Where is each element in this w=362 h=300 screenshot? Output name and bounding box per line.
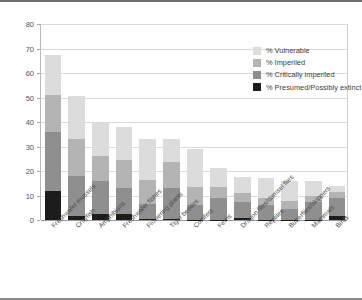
legend-swatch-icon: [253, 71, 261, 79]
y-axis-tick-label: 60: [4, 69, 34, 78]
bar-segment: [210, 187, 227, 198]
y-axis-tick-label: 70: [4, 44, 34, 53]
bar-segment: [234, 193, 251, 203]
bar-segment: [210, 168, 227, 187]
legend-swatch-icon: [253, 47, 261, 55]
y-axis-tick-mark: [37, 220, 40, 221]
bar-segment: [234, 177, 251, 192]
legend-label: % Imperiled: [266, 58, 305, 67]
bar-segment: [68, 139, 85, 176]
bar-segment: [45, 95, 62, 132]
legend-label: % Presumed/Possibly extinct: [266, 83, 361, 92]
y-axis-tick-label: 50: [4, 93, 34, 102]
y-axis-tick-label: 40: [4, 118, 34, 127]
bar-segment: [116, 127, 133, 160]
legend-item: % Critically imperiled: [253, 70, 361, 79]
y-axis-tick-label: 20: [4, 167, 34, 176]
legend-item: % Presumed/Possibly extinct: [253, 83, 361, 92]
legend-swatch-icon: [253, 59, 261, 67]
y-axis-tick-label: 30: [4, 142, 34, 151]
bar-stack: [92, 123, 109, 220]
bar-stack: [45, 55, 62, 220]
y-axis-tick-label: 0: [4, 216, 34, 225]
y-axis-tick-label: 10: [4, 191, 34, 200]
bar-segment: [187, 149, 204, 187]
legend-item: % Vulnerable: [253, 46, 361, 55]
bar-segment: [163, 139, 180, 162]
bar-segment: [139, 139, 156, 180]
bar-segment: [116, 160, 133, 189]
chart-legend: % Vulnerable% Imperiled% Critically impe…: [253, 46, 361, 92]
bar-segment: [45, 55, 62, 95]
y-axis-tick-label: 80: [4, 20, 34, 29]
bar-segment: [163, 162, 180, 188]
bar-segment: [45, 132, 62, 191]
chart-figure: 01020304050607080 % Vulnerable% Imperile…: [0, 0, 362, 300]
legend-label: % Vulnerable: [266, 46, 310, 55]
bar-segment: [92, 123, 109, 156]
bar-segment: [281, 201, 298, 209]
bar-segment: [92, 156, 109, 181]
bar-segment: [68, 96, 85, 139]
legend-item: % Imperiled: [253, 58, 361, 67]
x-axis: Freshwater musselsCrayfishAmphibiansFres…: [40, 222, 348, 300]
legend-swatch-icon: [253, 83, 261, 91]
legend-label: % Critically imperiled: [266, 70, 335, 79]
